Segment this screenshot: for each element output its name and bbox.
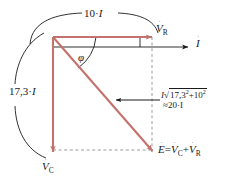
label-resultant-equation: ˙E=˙VC+˙VR (158, 144, 201, 158)
label-horizontal-magnitude: 10·I (84, 8, 102, 19)
dot-accent-icon: ˙ (160, 141, 162, 148)
dot-accent-icon: ˙ (173, 141, 175, 148)
label-phi-angle: φ (78, 52, 84, 63)
label-horizontal-magnitude-value: 10 (84, 7, 95, 19)
vector-e-resultant (53, 37, 153, 151)
label-vc-subscript: C (49, 166, 54, 175)
label-resultant-expression: I√17,32+102 (161, 87, 207, 100)
label-resultant-approx-text: ≈20·I (163, 100, 183, 110)
label-horizontal-magnitude-unit: I (99, 7, 103, 19)
radicand-a: 17,3 (170, 90, 186, 100)
radicand-b-exponent: 2 (203, 89, 206, 95)
phasor-vectors (53, 37, 153, 152)
phasor-diagram-figure: 10·I 17,3·I ˙VR ˙I φ ˙VC I√17,32+102 ≈20… (0, 0, 237, 181)
label-vertical-magnitude-unit: I (32, 85, 36, 97)
label-current-axis: ˙I (196, 38, 200, 49)
label-resultant-approx: ≈20·I (163, 101, 183, 110)
label-vr: ˙VR (156, 23, 168, 37)
dot-accent-icon: ˙ (44, 158, 46, 165)
radicand-b: 10 (194, 90, 203, 100)
label-vr-subscript: R (163, 28, 168, 37)
dot-accent-icon: ˙ (158, 20, 160, 27)
dot-accent-icon: ˙ (191, 141, 193, 148)
label-vc: ˙VC (42, 161, 54, 175)
equation-rhs-2-subscript: R (196, 149, 201, 158)
label-vertical-magnitude: 17,3·I (9, 86, 36, 97)
radicand-group: 17,32+102 (169, 88, 207, 100)
current-reference-axis (53, 37, 188, 47)
label-vertical-magnitude-value: 17,3 (9, 85, 28, 97)
dot-accent-icon: ˙ (197, 35, 199, 42)
